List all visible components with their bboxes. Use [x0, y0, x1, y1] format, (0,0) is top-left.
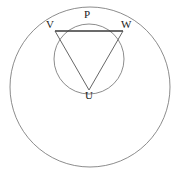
point-label-v: V — [46, 19, 54, 30]
segment-UW — [89, 31, 123, 90]
point-label-p: P — [84, 9, 90, 20]
segment-UV — [55, 31, 89, 90]
figure-canvas — [0, 0, 179, 176]
geometry-figure: P V W U — [0, 0, 179, 176]
circumcircle-UVW — [54, 24, 124, 94]
point-label-w: W — [121, 19, 131, 30]
point-label-u: U — [85, 90, 93, 101]
